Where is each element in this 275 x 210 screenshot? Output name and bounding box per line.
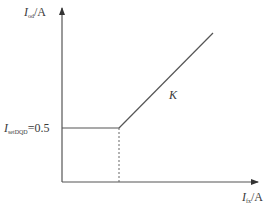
sloped-segment — [119, 33, 213, 128]
characteristic-diagram — [0, 0, 275, 210]
y-axis-label: Iod/A — [24, 6, 46, 19]
slope-k: K — [169, 88, 177, 102]
threshold-subscript: setDQD — [8, 129, 28, 135]
threshold-value: =0.5 — [28, 121, 50, 135]
threshold-label: IsetDQD=0.5 — [4, 122, 49, 135]
y-axis-unit: /A — [34, 5, 46, 19]
x-axis-unit: /A — [251, 190, 263, 204]
x-axis-label: Ifx/A — [242, 191, 263, 204]
slope-label: K — [169, 89, 177, 101]
